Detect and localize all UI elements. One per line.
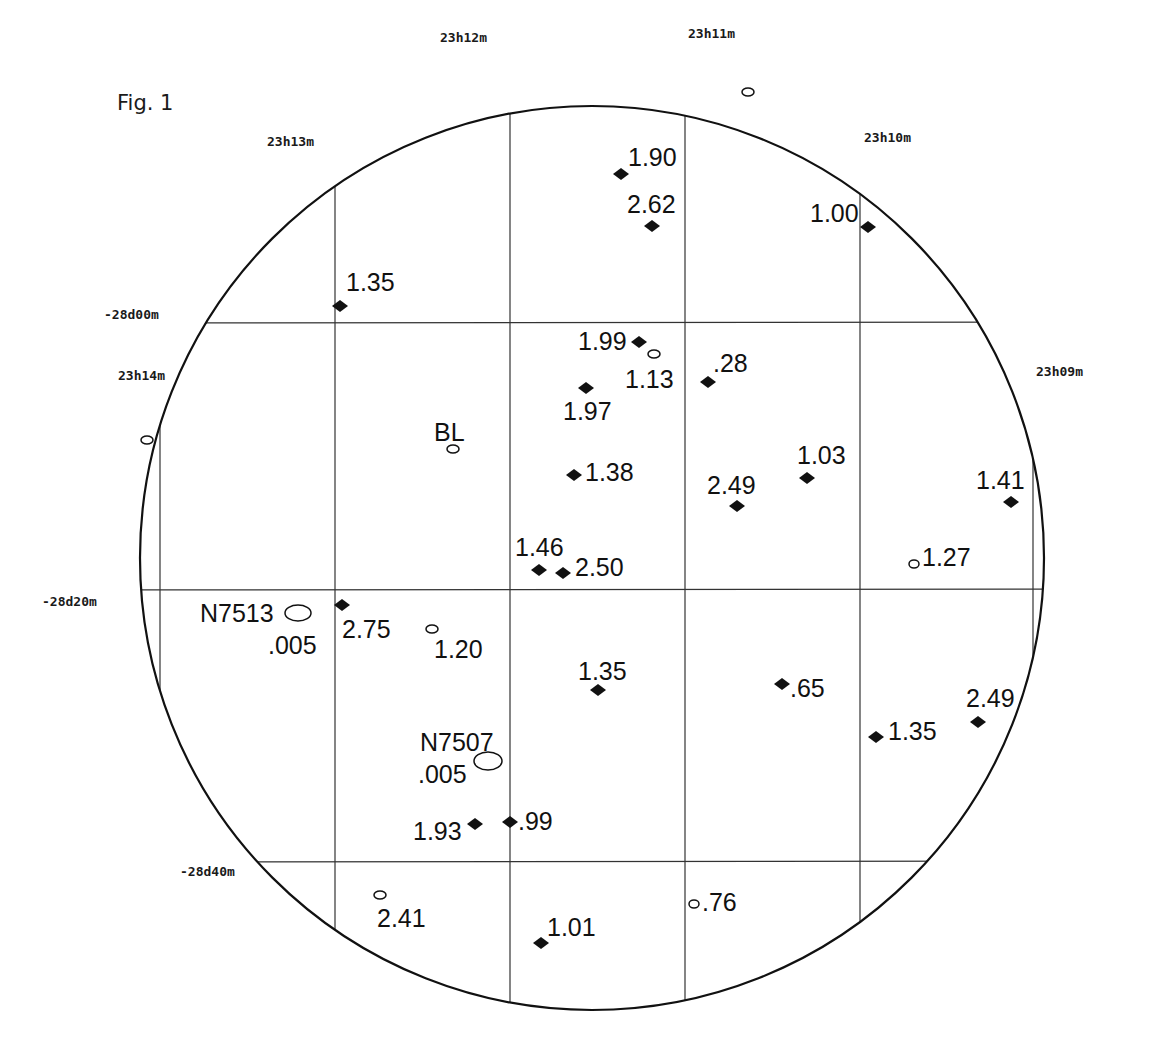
star-marker-filled (334, 599, 350, 611)
galaxy-name-n7513: N7513 (200, 599, 274, 627)
mag-label: 2.75 (342, 615, 391, 643)
star-marker-filled (860, 221, 876, 233)
mag-label: .99 (518, 807, 553, 835)
mag-label: .65 (790, 674, 825, 702)
star-marker-filled (1003, 496, 1019, 508)
star-marker-open (447, 445, 459, 453)
star-marker-filled (799, 472, 815, 484)
star-marker-filled (502, 816, 518, 828)
figure-title: Fig. 1 (117, 91, 173, 115)
star-marker-filled (774, 678, 790, 690)
star-marker-filled (555, 567, 571, 579)
star-marker-filled (868, 731, 884, 743)
star-marker-open (426, 625, 438, 633)
star-marker-filled (729, 500, 745, 512)
star-marker-filled (613, 168, 629, 180)
mag-label: 1.00 (810, 199, 859, 227)
star-marker-open (742, 88, 754, 96)
ra-label: 23h13m (267, 134, 314, 149)
finder-chart: Fig. 1 23h14m 23h13m 23h12m 23h11m 23h10… (0, 0, 1169, 1062)
dec-gridline-28d20m (0, 589, 1169, 590)
dec-gridline-28d00m (0, 322, 1169, 323)
star-marker-filled (590, 684, 606, 696)
mag-label: 2.49 (966, 684, 1015, 712)
dec-gridline-28d40m (0, 861, 1169, 862)
ra-label: 23h10m (864, 130, 911, 145)
mag-label: 1.13 (625, 365, 674, 393)
mag-label: 1.35 (578, 657, 627, 685)
mag-label: 1.97 (563, 397, 612, 425)
mag-label: 2.41 (377, 904, 426, 932)
star-marker-filled (578, 382, 594, 394)
star-marker-filled (970, 716, 986, 728)
grid (0, 0, 1169, 1062)
mag-label: 1.41 (976, 466, 1025, 494)
ra-label: 23h14m (118, 368, 165, 383)
mag-label: .76 (702, 888, 737, 916)
magnitude-labels: 1.90 2.62 1.00 1.35 1.99 1.13 .28 1.97 B… (200, 143, 1025, 941)
mag-label: 1.46 (515, 533, 564, 561)
mag-label: .28 (713, 349, 748, 377)
mag-label: 2.62 (627, 190, 676, 218)
star-marker-filled (644, 220, 660, 232)
dec-label: -28d20m (42, 594, 97, 609)
star-marker-open (909, 560, 919, 568)
star-marker-filled (566, 469, 582, 481)
star-marker-open (689, 900, 699, 908)
mag-label: 2.49 (707, 471, 756, 499)
mag-label: 1.35 (346, 268, 395, 296)
mag-label: 1.93 (413, 817, 462, 845)
mag-label: 1.35 (888, 717, 937, 745)
star-marker-filled (467, 818, 483, 830)
star-marker-filled (631, 336, 647, 348)
mag-label: 2.50 (575, 553, 624, 581)
star-marker-open (374, 891, 386, 899)
galaxy-mag-n7513: .005 (268, 631, 317, 659)
galaxy-name-n7507: N7507 (420, 728, 494, 756)
mag-label: 1.03 (797, 441, 846, 469)
mag-label-bl: BL (434, 418, 465, 446)
mag-label: 1.38 (585, 458, 634, 486)
galaxy-marker-n7513 (285, 605, 311, 621)
star-marker-filled (531, 564, 547, 576)
star-marker-open (141, 436, 153, 444)
mag-label: 1.90 (628, 143, 677, 171)
dec-label: -28d40m (180, 864, 235, 879)
star-marker-open (648, 350, 660, 358)
mag-label: 1.27 (922, 543, 971, 571)
mag-label: 1.99 (578, 327, 627, 355)
ra-label: 23h12m (440, 30, 487, 45)
mag-label: 1.20 (434, 635, 483, 663)
dec-label: -28d00m (104, 307, 159, 322)
ra-label: 23h11m (688, 26, 735, 41)
ra-label: 23h09m (1036, 364, 1083, 379)
star-marker-filled (700, 376, 716, 388)
mag-label: 1.01 (547, 913, 596, 941)
galaxy-mag-n7507: .005 (418, 760, 467, 788)
